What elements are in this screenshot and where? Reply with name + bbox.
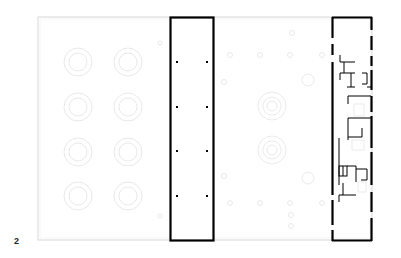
floor-plan — [0, 0, 401, 258]
figure-label: 2 — [14, 236, 19, 246]
right-building-interior — [339, 55, 371, 202]
right-building-fixtures — [352, 104, 366, 192]
right-building — [332, 17, 372, 241]
left-area-fixtures — [64, 41, 162, 218]
center-building — [171, 18, 214, 241]
middle-area-fixtures — [222, 31, 325, 229]
